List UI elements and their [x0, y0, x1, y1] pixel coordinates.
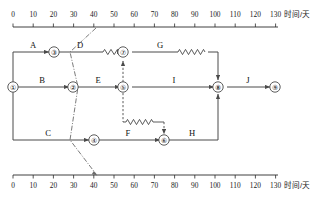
bottom-tick-label-60: 60 [131, 181, 139, 190]
node-8-label: ⑧ [215, 84, 221, 91]
node-2-label: ② [70, 84, 76, 91]
node-8[interactable]: ⑧ [213, 82, 223, 92]
top-tick-label-100: 100 [209, 10, 220, 19]
activity-label-A: A [30, 40, 37, 50]
node-9[interactable]: ⑨ [270, 82, 280, 92]
activity-label-C: C [45, 128, 51, 138]
activity-label-G: G [157, 40, 163, 50]
bottom-tick-label-80: 80 [171, 181, 179, 190]
top-tick-label-60: 60 [131, 10, 139, 19]
float-wave-D [103, 49, 119, 54]
top-tick-label-80: 80 [171, 10, 179, 19]
node-7[interactable]: ⑦ [118, 47, 128, 57]
bottom-axis-title: 时间/天 [284, 180, 310, 190]
bottom-tick-label-100: 100 [209, 181, 220, 190]
node-5-label: ⑤ [120, 84, 126, 91]
top-tick-label-90: 90 [191, 10, 199, 19]
node-4[interactable]: ④ [89, 135, 99, 145]
bottom-tick-label-10: 10 [30, 181, 38, 190]
top-tick-label-110: 110 [230, 10, 241, 19]
activity-label-H: H [189, 128, 195, 138]
activity-label-E: E [95, 75, 100, 85]
top-axis-ticks [13, 24, 276, 28]
top-axis-title: 时间/天 [284, 9, 310, 19]
top-tick-label-40: 40 [90, 10, 98, 19]
bottom-tick-label-40: 40 [90, 181, 98, 190]
top-tick-label-50: 50 [110, 10, 118, 19]
bottom-tick-label-30: 30 [70, 181, 78, 190]
activity-label-J: J [246, 75, 250, 85]
activity-label-D: D [77, 40, 83, 50]
bottom-time-axis: 0 10 20 30 40 50 60 70 80 90 100 110 120… [11, 175, 310, 190]
activity-label-B: B [39, 75, 45, 85]
activity-label-I: I [173, 75, 176, 85]
top-tick-label-130: 130 [270, 10, 281, 19]
node-4-label: ④ [91, 137, 97, 144]
node-6[interactable]: ⑥ [159, 135, 169, 145]
bottom-tick-label-0: 0 [11, 181, 15, 190]
node-1-label: ① [10, 84, 16, 91]
activity-label-F: F [126, 128, 131, 138]
node-2[interactable]: ② [68, 82, 78, 92]
bottom-tick-label-70: 70 [151, 181, 159, 190]
diagram-svg: 0 10 20 30 40 50 60 70 80 90 100 110 120… [0, 0, 317, 203]
node-1[interactable]: ① [8, 82, 18, 92]
top-tick-label-0: 0 [11, 10, 15, 19]
node-3[interactable]: ③ [49, 47, 59, 57]
bottom-tick-label-110: 110 [230, 181, 241, 190]
top-tick-label-30: 30 [70, 10, 78, 19]
network-diagram-canvas: 0 10 20 30 40 50 60 70 80 90 100 110 120… [0, 0, 317, 203]
top-tick-label-20: 20 [50, 10, 58, 19]
node-9-label: ⑨ [272, 84, 278, 91]
bottom-tick-label-20: 20 [50, 181, 58, 190]
node-6-label: ⑥ [161, 137, 167, 144]
node-5[interactable]: ⑤ [118, 82, 128, 92]
float-wave-G [178, 49, 205, 54]
bottom-tick-label-130: 130 [270, 181, 281, 190]
bottom-axis-ticks [13, 175, 276, 179]
activity-arrow-G-drop [208, 52, 218, 80]
node-7-label: ⑦ [120, 49, 126, 56]
bottom-tick-label-50: 50 [110, 181, 118, 190]
top-tick-label-70: 70 [151, 10, 159, 19]
bottom-tick-label-90: 90 [191, 181, 199, 190]
node-3-label: ③ [51, 49, 57, 56]
top-time-axis: 0 10 20 30 40 50 60 70 80 90 100 110 120… [11, 9, 310, 27]
top-tick-label-120: 120 [250, 10, 261, 19]
float-wave-dummy-5-to-6 [123, 119, 164, 124]
bottom-tick-label-120: 120 [250, 181, 261, 190]
top-tick-label-10: 10 [30, 10, 38, 19]
